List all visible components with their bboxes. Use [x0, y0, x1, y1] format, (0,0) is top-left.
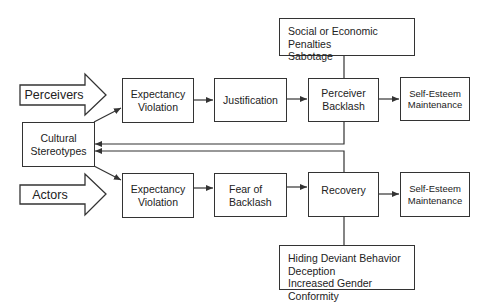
actors-label: Actors [20, 185, 80, 204]
stereotypes-to-perceiver-expectancy-arrow [94, 108, 121, 122]
self-esteem-text: Self-Esteem [408, 88, 462, 99]
perceiver-backlash-box: Perceiver Backlash [308, 78, 379, 122]
perceiver-text: Perceiver [321, 87, 365, 100]
expectancy-text: Expectancy [131, 88, 185, 101]
actor-self-esteem-box: Self-Esteem Maintenance [400, 172, 470, 217]
hiding-deviant-behavior-text: Hiding Deviant Behavior [288, 252, 414, 265]
penalties-text: Social or Economic Penalties [288, 25, 414, 50]
backlash-text: Backlash [321, 100, 365, 113]
deception-text: Deception [288, 265, 414, 278]
gender-conformity-text: Increased Gender Conformity [288, 277, 414, 302]
perceiver-expectancy-violation-box: Expectancy Violation [122, 78, 194, 123]
justification-box: Justification [214, 78, 287, 122]
recovery-feedback-arrow [95, 151, 344, 172]
actors-text: Actors [32, 188, 67, 202]
cultural-stereotypes-box: Cultural Stereotypes [22, 122, 95, 167]
self-esteem-text: Self-Esteem [408, 183, 462, 194]
perceivers-text: Perceivers [24, 88, 83, 102]
recovery-text: Recovery [321, 184, 365, 197]
recovery-strategies-box: Hiding Deviant Behavior Deception Increa… [279, 245, 415, 290]
recovery-box: Recovery [308, 172, 379, 217]
cultural-text: Cultural [30, 132, 86, 145]
actor-expectancy-violation-box: Expectancy Violation [122, 173, 194, 218]
fear-of-text: Fear of [229, 183, 272, 196]
stereotypes-to-actor-expectancy-arrow [94, 166, 121, 180]
sabotage-text: Sabotage [288, 50, 414, 63]
violation-text: Violation [131, 196, 185, 209]
stereotypes-text: Stereotypes [30, 145, 86, 158]
violation-text: Violation [131, 101, 185, 114]
fear-of-backlash-box: Fear of Backlash [214, 173, 287, 217]
maintenance-text: Maintenance [408, 195, 462, 206]
social-economic-penalties-box: Social or Economic Penalties Sabotage [279, 18, 415, 56]
backlash-text: Backlash [229, 196, 272, 209]
maintenance-text: Maintenance [408, 99, 462, 110]
justification-text: Justification [223, 94, 278, 107]
perceiver-self-esteem-box: Self-Esteem Maintenance [400, 77, 470, 121]
backlash-feedback-arrow [95, 121, 344, 144]
perceivers-label: Perceivers [20, 85, 88, 105]
expectancy-text: Expectancy [131, 183, 185, 196]
